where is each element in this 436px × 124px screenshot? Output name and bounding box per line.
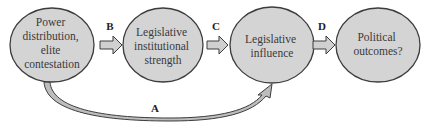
edge-label-d: D	[318, 20, 326, 32]
node-legislative-institutional-strength: Legislative institutional strength	[123, 8, 203, 82]
edge-label-a: A	[151, 102, 159, 114]
edge-b-block-arrow: B	[100, 20, 122, 54]
edge-a-curved-arrow: A	[44, 82, 272, 121]
causal-diagram: A Power distribution, elite contestation…	[0, 0, 436, 124]
node-ellipse	[230, 7, 314, 83]
node-political-outcomes: Political outcomes?	[336, 8, 420, 82]
node-power-distribution: Power distribution, elite contestation	[10, 8, 94, 82]
edge-d-block-arrow: D	[313, 20, 335, 54]
edge-label-b: B	[106, 20, 114, 32]
node-legislative-influence: Legislative influence	[230, 7, 314, 83]
edge-c-block-arrow: C	[207, 20, 228, 54]
edge-label-c: C	[212, 20, 220, 32]
